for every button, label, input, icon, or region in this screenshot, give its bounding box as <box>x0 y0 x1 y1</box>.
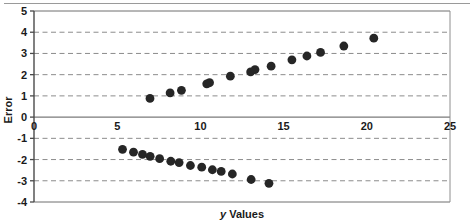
data-point <box>316 48 325 57</box>
x-tick-label-0: 0 <box>31 120 37 132</box>
chart-figure: -4-3-2-1012345 0510152025 Error y Values <box>0 0 474 224</box>
x-tick-label-20: 20 <box>361 120 373 132</box>
y-tick-label-3: 3 <box>21 47 27 59</box>
x-tick-label-10: 10 <box>194 120 206 132</box>
x-axis-title: y Values <box>219 208 264 220</box>
y-axis-tick-labels-group: -4-3-2-1012345 <box>17 5 28 208</box>
data-point <box>303 52 312 61</box>
data-point <box>339 42 348 51</box>
x-tick-label-15: 15 <box>277 120 289 132</box>
y-tick-label-5: 5 <box>21 5 27 17</box>
data-point <box>265 179 274 188</box>
data-point <box>267 62 276 71</box>
y-tick-label-4: 4 <box>21 26 28 38</box>
y-tick-label-0: 0 <box>21 111 27 123</box>
data-point <box>288 55 297 64</box>
data-point <box>217 167 226 176</box>
scatter-plot: -4-3-2-1012345 0510152025 Error y Values <box>0 0 474 224</box>
y-axis-title: Error <box>2 96 14 124</box>
data-point <box>226 72 235 81</box>
y-tick-label--4: -4 <box>17 196 28 208</box>
data-point <box>369 34 378 43</box>
data-point <box>138 150 147 159</box>
data-point <box>177 86 186 95</box>
data-point <box>166 89 175 98</box>
x-axis-title-rest: Values <box>226 208 264 220</box>
y-tick-label--3: -3 <box>17 175 27 187</box>
data-point <box>175 158 184 167</box>
x-tick-label-25: 25 <box>444 120 456 132</box>
data-point <box>251 65 260 74</box>
data-point <box>166 157 175 166</box>
data-point <box>228 170 237 179</box>
data-point <box>155 154 164 163</box>
data-point <box>146 152 155 161</box>
plot-background <box>34 11 450 202</box>
data-point <box>186 161 195 170</box>
x-tick-label-5: 5 <box>114 120 120 132</box>
data-point <box>247 175 256 184</box>
y-tick-label-1: 1 <box>21 90 27 102</box>
data-point <box>208 165 217 174</box>
data-point <box>129 148 138 157</box>
data-point <box>205 78 214 87</box>
y-tick-label--2: -2 <box>17 154 27 166</box>
data-point <box>146 94 155 103</box>
y-tick-label-2: 2 <box>21 69 27 81</box>
y-tick-label--1: -1 <box>17 132 27 144</box>
data-point <box>118 145 127 154</box>
data-point <box>197 163 206 172</box>
